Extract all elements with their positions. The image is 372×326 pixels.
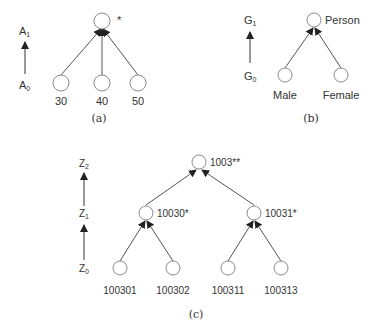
level-label-g1: G1 [244,14,257,27]
level-axis-a: A1 A0 [19,25,30,92]
level-label-z0: Z0 [79,263,89,275]
leaf-label: 100301 [103,285,137,296]
middle-label: 10031* [265,208,297,219]
leaf-node-40 [94,75,110,91]
leaf-label: 100302 [156,285,190,296]
leaf-label: 100311 [212,285,245,296]
edge-100313-10031 [255,221,281,261]
middle-label: 10030* [157,208,189,219]
level-label-z1: Z1 [79,208,89,220]
level-axis-b: G1 G0 [244,14,257,83]
leaf-label: 30 [55,95,67,107]
edge-100301-10030 [120,221,145,261]
leaf-node-100313 [274,261,288,275]
leaf-label: Male [273,89,297,101]
leaf-node-male [278,68,292,82]
edge-male-person [285,28,313,68]
caption-b: (b) [303,112,319,125]
level-label-z2: Z2 [79,158,89,170]
middle-node-10030 [139,206,153,220]
panel-a: A1 A0 * 30 40 50 (a) [19,13,146,125]
leaf-label: Female [323,89,360,101]
leaf-node-50 [130,75,146,91]
leaf-node-female [334,68,348,82]
leaf-node-100311 [221,261,235,275]
middle-node-10031 [247,206,261,220]
caption-a: (a) [91,112,106,125]
leaf-label: 100313 [264,285,298,296]
leaf-label: 40 [96,95,108,107]
leaf-node-100302 [166,261,180,275]
root-label-c: 1003** [210,157,240,168]
root-node-1003 [192,155,206,169]
edge-10031-1003 [202,170,254,205]
panel-c: Z2 Z1 Z0 1003** 10030* 10031* 100301 100… [79,155,298,321]
level-label-g0: G0 [244,70,257,83]
edge-female-person [315,28,341,68]
root-label-b: Person [325,14,360,26]
edge-100311-10031 [228,221,253,261]
edge-100302-10030 [147,221,173,261]
leaf-label: 50 [132,95,144,107]
leaf-node-100301 [113,261,127,275]
root-node-a [94,13,110,29]
panel-b: G1 G0 Person Male Female (b) [244,13,360,125]
level-label-a0: A0 [19,79,30,92]
leaf-node-30 [53,75,69,91]
level-axis-c: Z2 Z1 Z0 [79,158,89,275]
edge-50-root [103,29,138,75]
root-node-person [307,13,321,27]
level-label-a1: A1 [19,25,30,38]
caption-c: (c) [189,308,204,321]
edge-10030-1003 [146,170,196,205]
edge-30-root [61,29,101,75]
root-label-a: * [117,14,122,26]
generalization-hierarchy-figure: A1 A0 * 30 40 50 (a) G1 G0 Person Male F… [0,0,372,326]
